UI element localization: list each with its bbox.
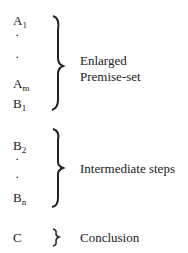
ellipsis-dot: · — [15, 28, 19, 42]
premise-am: Am — [13, 77, 29, 95]
label-enlarged: Enlarged — [80, 54, 127, 68]
ellipsis-dot: · — [15, 50, 19, 64]
label-premise-set: Premise-set — [80, 70, 141, 84]
step-bn: Bn — [13, 191, 26, 209]
conclusion-c: C — [13, 231, 22, 245]
label-conclusion: Conclusion — [80, 231, 139, 245]
step-b1: B1 — [13, 97, 26, 115]
label-intermediate-steps: Intermediate steps — [80, 162, 175, 176]
ellipsis-dot: · — [15, 152, 19, 166]
braces — [0, 0, 188, 253]
ellipsis-dot: · — [15, 170, 19, 184]
